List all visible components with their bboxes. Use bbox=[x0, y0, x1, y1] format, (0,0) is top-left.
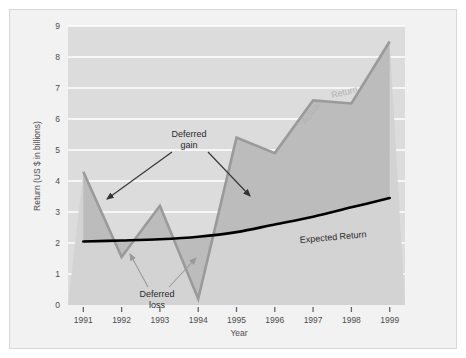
x-axis-tick-labels: 199119921993199419951996199719981999 bbox=[74, 315, 400, 325]
deferred-loss-label-line1: Deferred bbox=[139, 289, 174, 299]
x-axis-title: Year bbox=[230, 328, 247, 338]
deferred-gain-label-line2: gain bbox=[180, 140, 197, 150]
y-axis-tick-labels: 0123456789 bbox=[55, 21, 60, 310]
x-tick-label: 1997 bbox=[304, 315, 323, 325]
y-tick-label: 7 bbox=[55, 83, 60, 93]
x-tick-label: 1999 bbox=[380, 315, 399, 325]
x-tick-label: 1992 bbox=[112, 315, 131, 325]
y-tick-label: 8 bbox=[55, 52, 60, 62]
x-tick-label: 1998 bbox=[342, 315, 361, 325]
return-line-chart: 199119921993199419951996199719981999 012… bbox=[0, 0, 466, 358]
y-tick-label: 3 bbox=[55, 207, 60, 217]
y-tick-label: 1 bbox=[55, 269, 60, 279]
y-tick-label: 9 bbox=[55, 21, 60, 31]
x-tick-label: 1996 bbox=[265, 315, 284, 325]
x-tick-label: 1991 bbox=[74, 315, 93, 325]
y-axis-title: Return (US $ in billions) bbox=[32, 121, 42, 211]
y-tick-label: 0 bbox=[55, 300, 60, 310]
x-tick-label: 1995 bbox=[227, 315, 246, 325]
deferred-loss-label-line2: loss bbox=[149, 300, 166, 310]
x-axis-ticks bbox=[83, 307, 389, 312]
y-tick-label: 6 bbox=[55, 114, 60, 124]
y-tick-label: 4 bbox=[55, 176, 60, 186]
x-tick-label: 1993 bbox=[150, 315, 169, 325]
y-tick-label: 2 bbox=[55, 238, 60, 248]
y-tick-label: 5 bbox=[55, 145, 60, 155]
x-tick-label: 1994 bbox=[189, 315, 208, 325]
chart-figure: 199119921993199419951996199719981999 012… bbox=[0, 0, 466, 358]
deferred-gain-label-line1: Deferred bbox=[171, 129, 206, 139]
